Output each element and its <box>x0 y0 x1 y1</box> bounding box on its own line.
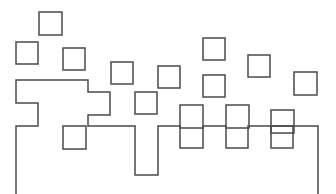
line-drawing-figure <box>0 0 336 194</box>
figure-canvas <box>0 0 336 194</box>
figure-background <box>0 0 336 194</box>
